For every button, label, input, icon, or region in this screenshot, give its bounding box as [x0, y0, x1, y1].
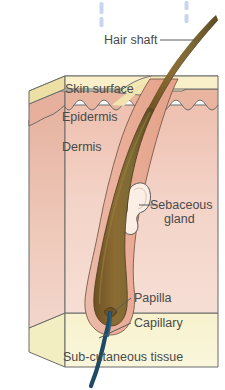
skin-hair-follicle-diagram: Hair shaft Skin surface Epidermis Dermis… — [0, 0, 225, 390]
label-sebaceous-gland-line2: gland — [150, 212, 195, 226]
label-skin-surface: Skin surface — [65, 82, 134, 96]
tick-marks — [100, 1, 189, 27]
label-dermis: Dermis — [62, 140, 102, 154]
label-papilla: Papilla — [134, 291, 172, 305]
label-subcutaneous-tissue: Sub-cutaneous tissue — [63, 350, 183, 364]
label-sebaceous-gland-line1: Sebaceous — [150, 198, 213, 212]
diagram-canvas — [0, 0, 225, 390]
label-capillary: Capillary — [134, 316, 183, 330]
label-sebaceous-gland: Sebaceous gland — [150, 198, 222, 226]
label-epidermis: Epidermis — [62, 110, 118, 124]
label-hair-shaft: Hair shaft — [104, 33, 158, 47]
